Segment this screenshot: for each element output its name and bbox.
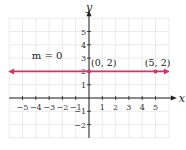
y-axis-label: y [85,1,93,14]
y-tick-label: 3 [81,54,86,63]
x-tick-label: 2 [113,103,118,112]
data-point [87,69,91,73]
y-tick-label: −1 [74,107,86,116]
y-tick-label: −2 [74,121,86,130]
x-tick-label: 4 [140,103,145,112]
y-tick-label: 4 [81,41,86,50]
x-tick-label: −2 [57,103,69,112]
y-tick-label: 1 [81,81,86,90]
coordinate-plane: −5−4−3−2−112345−2−112345 x y m = 0 (0, 2… [0,0,186,150]
tick-labels: −5−4−3−2−112345−2−112345 [17,28,158,130]
x-tick-label: −5 [17,103,29,112]
y-tick-label: 5 [81,28,86,37]
x-tick-label: 1 [100,103,105,112]
point-label-5-2: (5, 2) [145,57,171,68]
x-tick-label: 5 [153,103,158,112]
x-tick-label: 3 [126,103,131,112]
x-axis-arrow-icon [171,96,177,101]
x-axis-label: x [179,92,186,105]
x-tick-label: −3 [43,103,55,112]
slope-annotation: m = 0 [32,50,63,61]
point-label-0-2: (0, 2) [91,57,117,68]
axes [9,10,177,138]
x-tick-label: −4 [30,103,42,112]
data-point [154,69,158,73]
